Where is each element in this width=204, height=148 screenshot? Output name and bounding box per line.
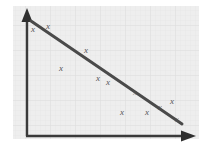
data-point-marker: x [95, 73, 100, 83]
data-point-marker: x [174, 114, 179, 124]
data-point-marker: x [169, 96, 174, 106]
scatter-plot-figure: x x x x x x x x x x x x [0, 0, 204, 148]
data-point-marker: x [58, 63, 63, 73]
data-point-marker: x [157, 102, 162, 112]
data-point-marker: x [30, 24, 35, 34]
data-point-marker: x [105, 77, 110, 87]
data-point-marker: x [119, 107, 124, 117]
data-point-marker: x [83, 45, 88, 55]
chart-canvas: x x x x x x x x x x x x [0, 0, 204, 148]
data-point-marker: x [144, 107, 149, 117]
data-point-marker: x [45, 21, 50, 31]
data-point-marker: x [132, 87, 137, 97]
